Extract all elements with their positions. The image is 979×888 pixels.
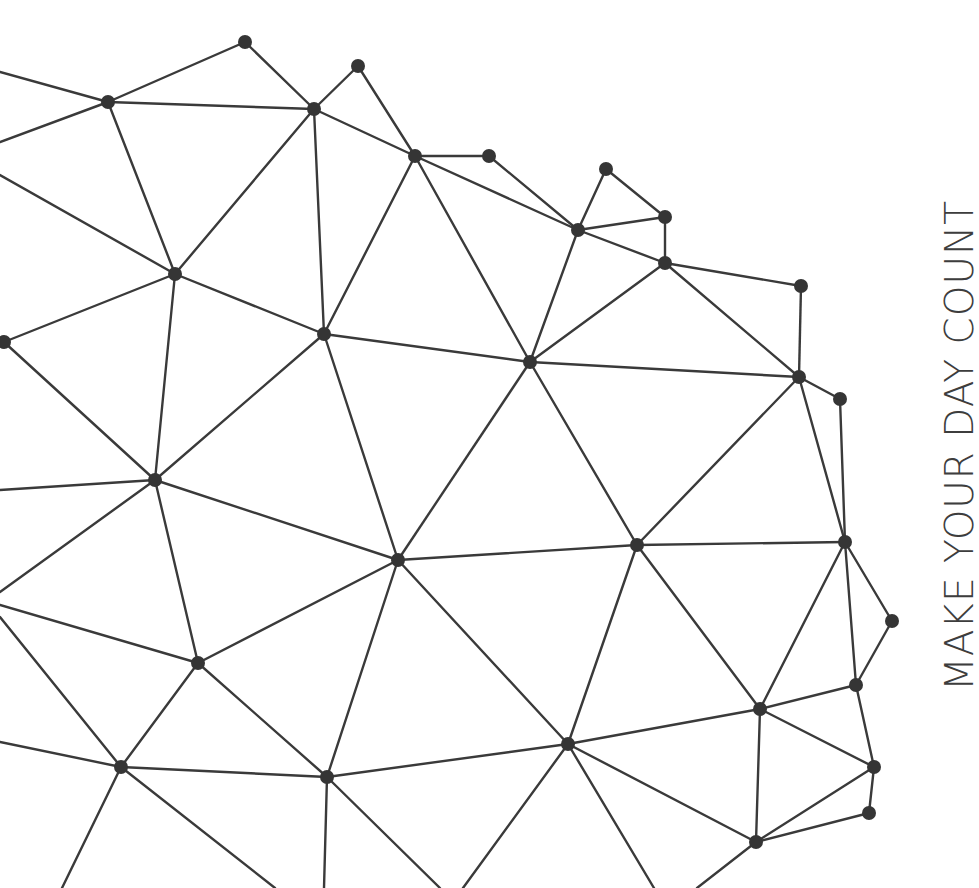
network-node-dot-icon xyxy=(885,614,899,628)
network-edge xyxy=(324,334,530,362)
network-edge xyxy=(856,621,892,685)
network-edge xyxy=(530,362,799,377)
network-node-dot-icon xyxy=(320,770,334,784)
network-edge xyxy=(578,217,665,230)
network-edge xyxy=(155,274,175,480)
network-edge xyxy=(398,545,637,560)
network-node-dot-icon xyxy=(862,806,876,820)
tagline-text: MAKE YOUR DAY COUNT xyxy=(940,200,979,691)
network-edge xyxy=(327,560,398,777)
network-node-dot-icon xyxy=(148,473,162,487)
network-edge xyxy=(415,156,530,362)
network-edge xyxy=(568,709,760,744)
network-node-dot-icon xyxy=(307,102,321,116)
network-edge xyxy=(760,685,856,709)
network-edge xyxy=(327,744,568,777)
network-edge xyxy=(324,334,398,560)
network-edge xyxy=(578,230,665,263)
network-edge xyxy=(530,230,578,362)
network-node-dot-icon xyxy=(482,149,496,163)
network-node-dot-icon xyxy=(658,210,672,224)
network-node-dot-icon xyxy=(561,737,575,751)
network-node-dot-icon xyxy=(849,678,863,692)
network-edge xyxy=(108,102,314,109)
network-edge xyxy=(845,542,892,621)
network-edge xyxy=(324,777,327,888)
network-node-dot-icon xyxy=(317,327,331,341)
network-edge xyxy=(198,560,398,663)
network-edge xyxy=(760,542,845,709)
network-edge xyxy=(665,263,801,286)
network-edge xyxy=(760,709,874,767)
network-edge xyxy=(845,542,856,685)
network-edge xyxy=(756,767,874,842)
network-edge xyxy=(398,560,568,744)
network-node-dot-icon xyxy=(630,538,644,552)
network-edge xyxy=(637,542,845,545)
network-edge xyxy=(245,42,314,109)
network-edge xyxy=(799,286,801,377)
network-edge xyxy=(398,362,530,560)
network-edge xyxy=(327,777,440,888)
network-node-dot-icon xyxy=(523,355,537,369)
network-edge xyxy=(155,334,324,480)
network-node-dot-icon xyxy=(191,656,205,670)
network-edge xyxy=(175,109,314,274)
network-node-dot-icon xyxy=(749,835,763,849)
network-node-dot-icon xyxy=(408,149,422,163)
network-edge xyxy=(0,102,108,142)
network-edge xyxy=(121,767,327,777)
network-edge xyxy=(0,175,175,274)
network-edge xyxy=(324,156,415,334)
network-node-dot-icon xyxy=(114,760,128,774)
network-edge xyxy=(0,72,108,102)
network-edge xyxy=(665,263,799,377)
network-node-dot-icon xyxy=(867,760,881,774)
network-edges xyxy=(0,42,892,888)
network-edge xyxy=(0,480,155,592)
network-node-dot-icon xyxy=(794,279,808,293)
network-edge xyxy=(314,66,358,109)
network-node-dot-icon xyxy=(838,535,852,549)
network-edge xyxy=(4,342,155,480)
network-node-dot-icon xyxy=(658,256,672,270)
network-node-dot-icon xyxy=(599,162,613,176)
network-node-dot-icon xyxy=(792,370,806,384)
network-edge xyxy=(756,709,760,842)
network-edge xyxy=(756,813,869,842)
network-edge xyxy=(463,744,568,888)
network-node-dot-icon xyxy=(753,702,767,716)
network-edge xyxy=(697,842,756,888)
network-node-dot-icon xyxy=(238,35,252,49)
network-edge xyxy=(4,274,175,342)
network-edge xyxy=(62,767,121,888)
network-node-dot-icon xyxy=(833,392,847,406)
network-edge xyxy=(108,102,175,274)
network-edge xyxy=(121,663,198,767)
network-edge xyxy=(568,545,637,744)
network-node-dot-icon xyxy=(101,95,115,109)
network-edge xyxy=(0,617,121,767)
network-edge xyxy=(198,663,327,777)
network-edge xyxy=(840,399,845,542)
network-edge xyxy=(856,685,874,767)
network-edge xyxy=(175,274,324,334)
network-edge xyxy=(314,109,324,334)
network-node-dot-icon xyxy=(351,59,365,73)
network-edge xyxy=(530,263,665,362)
network-edge xyxy=(108,42,245,102)
network-edge xyxy=(155,480,198,663)
network-edge xyxy=(637,545,760,709)
network-edge xyxy=(530,362,637,545)
network-edge xyxy=(155,480,398,560)
network-node-dot-icon xyxy=(168,267,182,281)
network-edge xyxy=(489,156,578,230)
network-edge xyxy=(606,169,665,217)
network-edge xyxy=(637,377,799,545)
network-node-dot-icon xyxy=(571,223,585,237)
network-edge xyxy=(415,156,578,230)
network-edge xyxy=(578,169,606,230)
network-edge xyxy=(121,767,275,888)
network-node-dot-icon xyxy=(391,553,405,567)
